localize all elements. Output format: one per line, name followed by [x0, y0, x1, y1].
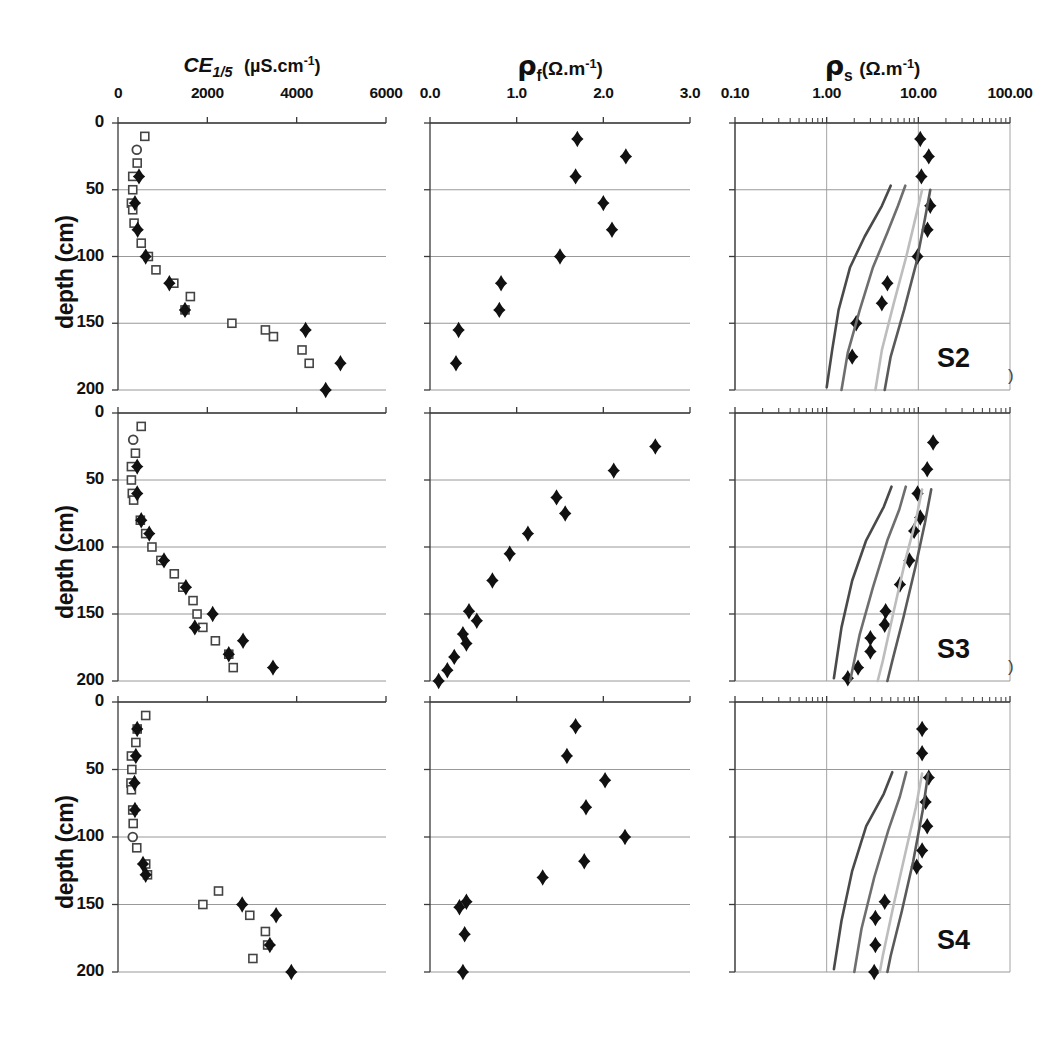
data-point-open-square: [127, 752, 135, 760]
data-point-open-square: [131, 449, 139, 457]
data-point-open-square: [298, 346, 306, 354]
xtick-label-rhof-1: 1.0: [467, 84, 567, 102]
data-point-open-square: [148, 543, 156, 551]
data-point-open-square: [128, 766, 136, 774]
data-point-filled-diamond: [868, 964, 880, 980]
data-point-open-square: [142, 530, 150, 538]
data-point-open-square: [261, 326, 269, 334]
data-point-filled-diamond: [908, 523, 920, 539]
model-curve: [854, 772, 906, 972]
data-point-open-square: [189, 597, 197, 605]
data-point-filled-diamond: [236, 896, 248, 912]
column-title-symbol: CE1/5: [183, 53, 232, 76]
data-point-open-square: [133, 844, 141, 852]
data-point-filled-diamond: [180, 579, 192, 595]
data-point-open-square: [144, 253, 152, 261]
data-point-open-square: [305, 359, 313, 367]
data-point-open-square: [129, 806, 137, 814]
data-point-filled-diamond: [923, 769, 935, 785]
ytick-label-row1-4: 200: [30, 670, 104, 690]
data-point-filled-diamond: [578, 853, 590, 869]
data-point-open-square: [137, 422, 145, 430]
data-point-filled-diamond: [495, 275, 507, 291]
column-title-rhos: ρs (Ω.m-1): [743, 50, 1003, 85]
y-axis-title-row0: depth (cm): [52, 215, 79, 329]
data-point-filled-diamond: [606, 222, 618, 238]
data-point-filled-diamond: [608, 462, 620, 478]
data-point-filled-diamond: [471, 613, 483, 629]
data-point-filled-diamond: [894, 576, 906, 592]
data-point-open-square: [132, 739, 140, 747]
data-point-open-square: [127, 199, 135, 207]
panel-S4-CE: [0, 0, 1062, 1041]
column-title-rhof: ρf(Ω.m-1): [430, 50, 690, 85]
data-point-filled-diamond: [923, 148, 935, 164]
column-title-units: (Ω.m-1): [542, 58, 603, 79]
data-point-filled-diamond: [561, 748, 573, 764]
data-point-open-square: [129, 172, 137, 180]
data-point-filled-diamond: [916, 745, 928, 761]
data-point-filled-diamond: [441, 662, 453, 678]
data-point-filled-diamond: [554, 248, 566, 264]
data-point-filled-diamond: [163, 275, 175, 291]
y-axis-title-row1: depth (cm): [52, 505, 79, 619]
data-point-filled-diamond: [921, 461, 933, 477]
data-point-open-circle: [128, 833, 137, 842]
data-point-filled-diamond: [914, 131, 926, 147]
data-point-filled-diamond: [881, 275, 893, 291]
ytick-label-row2-4: 200: [30, 961, 104, 981]
stray-paren-row1: ): [1008, 657, 1014, 677]
data-point-filled-diamond: [879, 894, 891, 910]
data-point-open-square: [127, 779, 135, 787]
data-point-filled-diamond: [320, 382, 332, 398]
data-point-filled-diamond: [299, 322, 311, 338]
data-point-filled-diamond: [457, 626, 469, 642]
panel-S2-rhof: [0, 0, 1062, 1041]
data-point-filled-diamond: [237, 633, 249, 649]
model-curve: [842, 186, 906, 390]
data-point-filled-diamond: [921, 818, 933, 834]
model-curve: [850, 487, 906, 681]
data-point-open-square: [229, 664, 237, 672]
data-point-filled-diamond: [869, 937, 881, 953]
data-point-filled-diamond: [522, 525, 534, 541]
data-point-filled-diamond: [852, 659, 864, 675]
data-point-open-square: [186, 293, 194, 301]
data-point-filled-diamond: [131, 721, 143, 737]
data-point-open-square: [170, 279, 178, 287]
data-point-open-square: [193, 610, 201, 618]
data-point-filled-diamond: [131, 222, 143, 238]
data-point-filled-diamond: [458, 926, 470, 942]
panel-S3-rhos: [0, 0, 1062, 1041]
data-point-filled-diamond: [206, 606, 218, 622]
data-point-filled-diamond: [911, 248, 923, 264]
model-curve: [875, 190, 922, 390]
xtick-label-rhos-2: 10.00: [868, 84, 968, 102]
data-point-filled-diamond: [850, 315, 862, 331]
data-point-filled-diamond: [504, 546, 516, 562]
data-point-open-square: [127, 463, 135, 471]
panel-S3-CE: [0, 0, 1062, 1041]
data-point-open-square: [199, 901, 207, 909]
ytick-label-row0-4: 200: [30, 379, 104, 399]
xtick-label-rhos-1: 1.00: [777, 84, 877, 102]
model-curve: [887, 489, 931, 681]
model-curve: [880, 774, 922, 973]
data-point-filled-diamond: [919, 794, 931, 810]
data-point-filled-diamond: [139, 867, 151, 883]
data-point-filled-diamond: [460, 635, 472, 651]
data-point-filled-diamond: [130, 748, 142, 764]
data-point-filled-diamond: [143, 525, 155, 541]
ytick-label-row2-0: 0: [30, 691, 104, 711]
column-title-ce: CE1/5 (µS.cm-1): [122, 53, 382, 80]
data-point-filled-diamond: [189, 619, 201, 635]
data-point-filled-diamond: [463, 603, 475, 619]
model-curve: [834, 772, 892, 969]
data-point-open-square: [127, 786, 135, 794]
data-point-open-square: [170, 570, 178, 578]
data-point-filled-diamond: [457, 964, 469, 980]
data-point-open-square: [249, 955, 257, 963]
data-point-open-square: [157, 556, 165, 564]
data-point-open-square: [127, 476, 135, 484]
data-point-open-square: [142, 860, 150, 868]
